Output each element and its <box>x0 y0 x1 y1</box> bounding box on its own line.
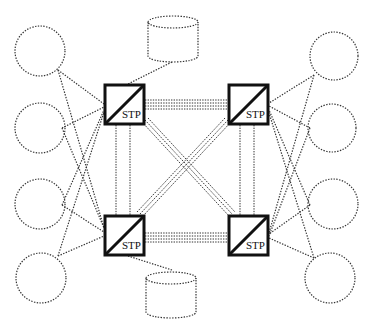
endpoint-node[interactable] <box>15 179 65 229</box>
stp-node-top-right[interactable]: STP <box>229 85 268 124</box>
endpoint-node[interactable] <box>308 104 356 152</box>
database-bottom[interactable] <box>146 272 196 318</box>
database-top[interactable] <box>148 16 198 62</box>
db-top-link <box>128 62 172 84</box>
endpoint-node[interactable] <box>15 26 65 76</box>
stp-node-bottom-left[interactable]: STP <box>105 216 144 255</box>
stp-node-bottom-right[interactable]: STP <box>229 216 268 255</box>
stp-label: STP <box>246 239 265 251</box>
left-access-links <box>58 70 104 256</box>
endpoint-node[interactable] <box>15 103 65 153</box>
stp-label: STP <box>246 108 265 120</box>
endpoint-node[interactable] <box>310 32 358 80</box>
stp-node-top-left[interactable]: STP <box>105 85 144 124</box>
right-endpoints <box>305 32 358 303</box>
endpoint-node[interactable] <box>308 179 358 229</box>
db-bottom-link <box>128 256 172 270</box>
network-diagram: STP STP STP STP <box>0 0 368 327</box>
endpoint-node[interactable] <box>305 253 355 303</box>
stp-label: STP <box>122 239 141 251</box>
right-access-links <box>269 75 314 258</box>
stp-label: STP <box>122 108 141 120</box>
left-endpoints <box>15 26 66 303</box>
endpoint-node[interactable] <box>16 253 66 303</box>
